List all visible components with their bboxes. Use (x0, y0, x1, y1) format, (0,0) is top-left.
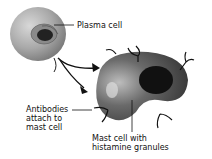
plasma-cell (10, 7, 66, 61)
label-line: Mast cell with (92, 134, 169, 143)
label-line: Antibodies (26, 105, 68, 114)
mast-cell (96, 52, 188, 120)
label-mast-cell: Mast cell with histamine granules (92, 134, 169, 152)
label-antibodies: Antibodies attach to mast cell (26, 105, 68, 132)
label-line: attach to (26, 114, 68, 123)
arrows (58, 58, 98, 88)
diagram: Plasma cell Antibodies attach to mast ce… (0, 0, 212, 159)
label-line: histamine granules (92, 143, 169, 152)
label-plasma-cell: Plasma cell (77, 21, 122, 30)
label-line: mast cell (26, 123, 68, 132)
